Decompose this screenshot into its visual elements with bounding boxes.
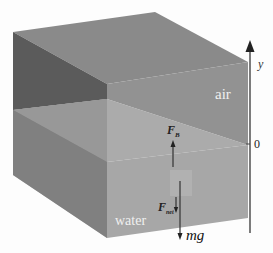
weight-arrowhead-icon: [178, 233, 183, 240]
air-label: air: [215, 86, 231, 102]
y-axis-arrow-icon: [246, 40, 255, 52]
buoyancy-diagram: air water y 0 FB Fnet mg: [0, 0, 273, 253]
y-axis-label: y: [257, 57, 264, 71]
submerged-object: [170, 170, 192, 196]
y-axis-origin-label: 0: [254, 137, 260, 151]
water-label: water: [115, 213, 146, 228]
weight-label: mg: [186, 227, 205, 243]
cube-illustration: air water y 0 FB Fnet mg: [0, 0, 273, 253]
